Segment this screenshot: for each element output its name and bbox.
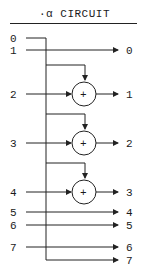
output-label-2: 2 <box>126 138 133 150</box>
input-label-1: 1 <box>10 45 17 57</box>
adder-1-symbol: + <box>80 89 87 101</box>
output-label-0: 0 <box>126 45 133 57</box>
input-label-5: 5 <box>10 207 17 219</box>
output-label-6: 6 <box>126 242 133 254</box>
adder-3-symbol: + <box>80 187 87 199</box>
output-label-4: 4 <box>126 207 133 219</box>
output-label-3: 3 <box>126 187 133 199</box>
branch-adder-3 <box>46 163 85 178</box>
input-label-6: 6 <box>10 220 17 232</box>
bus-line-0 <box>26 38 46 260</box>
branch-adder-1 <box>46 65 85 80</box>
alpha-circuit-diagram: + + + 0 1 2 3 4 5 6 7 0 1 2 3 4 5 6 7 <box>0 0 149 277</box>
input-label-4: 4 <box>10 187 17 199</box>
output-label-1: 1 <box>126 89 133 101</box>
adder-2-symbol: + <box>80 138 87 150</box>
input-label-7: 7 <box>10 242 17 254</box>
input-label-0: 0 <box>10 33 17 45</box>
input-label-2: 2 <box>10 89 17 101</box>
output-label-5: 5 <box>126 220 133 232</box>
branch-adder-2 <box>46 114 85 129</box>
output-label-7: 7 <box>126 255 133 267</box>
input-label-3: 3 <box>10 138 17 150</box>
